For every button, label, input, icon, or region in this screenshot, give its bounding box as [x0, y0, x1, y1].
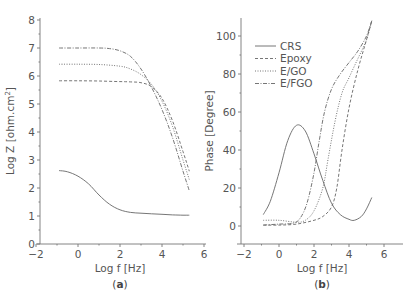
- figure: 012345678 −20246 Log Z [ohm.cm2] Log f […: [0, 0, 409, 303]
- legend-label: Epoxy: [280, 52, 312, 64]
- x-tick-label: −2: [28, 248, 43, 260]
- panel-a-x-ticks: −20246: [28, 244, 207, 260]
- series-crs-line: [263, 125, 372, 221]
- y-tick-label: 6: [28, 70, 35, 82]
- panel-a-y-axis-title: Log Z [ohm.cm2]: [4, 87, 16, 175]
- panel-a-y-ticks: 012345678: [28, 14, 40, 250]
- panel-b-y-ticks: 020406080100: [216, 30, 241, 232]
- y-tick-label: 2: [28, 182, 35, 194]
- panel-a-logz-plot: 012345678 −20246 Log Z [ohm.cm2] Log f […: [4, 14, 208, 291]
- panel-a-label: (a): [112, 278, 127, 290]
- panel-b-label: (b): [314, 278, 330, 290]
- y-tick-label: 100: [216, 30, 236, 42]
- legend-label: E/GO: [280, 65, 307, 77]
- x-tick-label: 2: [311, 248, 318, 260]
- y-tick-label: 40: [223, 144, 236, 156]
- panel-a-letter: a: [116, 278, 123, 290]
- y-tick-label: 0: [229, 220, 236, 232]
- x-tick-label: 0: [276, 248, 283, 260]
- y-tick-label: 7: [28, 42, 35, 54]
- series-epoxy-line: [59, 81, 189, 171]
- panel-b-letter: b: [318, 278, 326, 290]
- y-tick-label: 8: [28, 14, 35, 26]
- y-tick-label: 3: [28, 154, 35, 166]
- panel-a-x-axis-title: Log f [Hz]: [95, 262, 146, 274]
- x-tick-label: 2: [117, 248, 124, 260]
- series-crs-line: [59, 171, 189, 216]
- panel-b-phase-plot: 020406080100 −20246 CRSEpoxyE/GOE/FGO Ph…: [203, 18, 403, 290]
- y-tick-label: 5: [28, 98, 35, 110]
- panel-a-curves: [59, 48, 189, 215]
- y-tick-label: 1: [28, 210, 35, 222]
- panel-b-x-ticks: −20246: [236, 244, 387, 260]
- x-tick-label: 4: [159, 248, 166, 260]
- x-tick-label: 0: [75, 248, 82, 260]
- y-tick-label: 80: [223, 68, 236, 80]
- panel-b-y-axis-title: Phase [Degree]: [203, 90, 215, 171]
- x-tick-label: 6: [381, 248, 388, 260]
- x-tick-label: 6: [201, 248, 208, 260]
- y-tick-label: 60: [223, 106, 236, 118]
- legend-label: CRS: [280, 40, 302, 52]
- x-tick-label: −2: [236, 248, 251, 260]
- panel-b-legend: CRSEpoxyE/GOE/FGO: [255, 40, 313, 90]
- panel-b-x-axis-title: Log f [Hz]: [297, 262, 348, 274]
- y-tick-label: 4: [28, 126, 35, 138]
- legend-label: E/FGO: [280, 77, 313, 89]
- y-tick-label: 20: [223, 182, 236, 194]
- x-tick-label: 4: [346, 248, 353, 260]
